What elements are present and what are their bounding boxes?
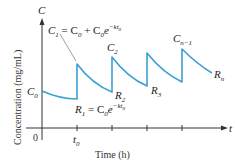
y-axis-arrow-icon <box>40 18 45 25</box>
t0-tick-label: t0 <box>73 134 80 148</box>
r1-equation: R1 = C0e−kt0 <box>75 103 125 118</box>
x-axis-arrow-icon <box>221 126 228 131</box>
c0-label: C0 <box>27 86 38 100</box>
c1-equation: C1 = C0 + C0e−kt0 <box>48 24 121 39</box>
origin-label: 0 <box>33 133 38 143</box>
rn-label: Rn <box>214 69 224 83</box>
r2-label: R2 <box>115 90 125 104</box>
y-axis-title: Concentration (mg/mL) <box>13 50 23 145</box>
t-axis-label: t <box>229 123 232 134</box>
c2-label: C2 <box>107 42 118 56</box>
concentration-curve <box>42 49 212 99</box>
c-axis-label: C <box>38 5 45 16</box>
cn-1-label: Cn−1 <box>173 33 192 47</box>
x-axis-title: Time (h) <box>95 150 130 160</box>
r3-label: R3 <box>151 85 161 99</box>
